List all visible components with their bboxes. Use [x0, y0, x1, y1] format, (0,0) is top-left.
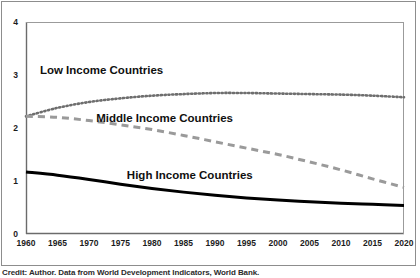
x-tick-labels: 1960196519701975198019851990199520002005… [17, 238, 414, 248]
x-tick-label: 1985 [174, 238, 193, 248]
y-tick-label: 4 [13, 17, 18, 27]
line-chart: 01234 1960196519701975198019851990199520… [0, 0, 420, 278]
series-label-0: Low Income Countries [40, 64, 163, 76]
x-tick-label: 2020 [395, 238, 414, 248]
y-tick-label: 2 [13, 123, 18, 133]
figure-caption: Credit: Author. Data from World Developm… [2, 268, 259, 277]
y-tick-label: 3 [13, 70, 18, 80]
y-tick-label: 1 [13, 176, 18, 186]
x-tick-label: 1975 [111, 238, 130, 248]
x-tick-label: 2005 [300, 238, 319, 248]
x-tick-label: 2000 [269, 238, 288, 248]
y-tick-labels: 01234 [13, 17, 18, 239]
x-tick-label: 1965 [48, 238, 67, 248]
x-tick-label: 2010 [332, 238, 351, 248]
x-tick-label: 1960 [17, 238, 36, 248]
series-label-1: Middle Income Countries [96, 112, 233, 124]
x-tick-label: 2015 [363, 238, 382, 248]
x-tick-label: 1970 [80, 238, 99, 248]
figure-container: 01234 1960196519701975198019851990199520… [0, 0, 420, 278]
x-tick-label: 1995 [237, 238, 256, 248]
x-tick-label: 1990 [206, 238, 225, 248]
series-label-2: High Income Countries [127, 169, 253, 181]
x-tick-label: 1980 [143, 238, 162, 248]
